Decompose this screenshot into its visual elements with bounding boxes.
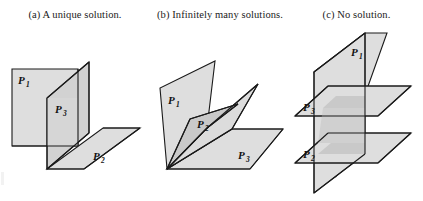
plane-label-p1-subscript: 1 [359,52,363,61]
figure-root: (a) A unique solution. [0,0,423,201]
plane-label-p3-letter: P [55,103,62,115]
plane-label-p1-subscript: 1 [26,80,30,89]
scan-edge-artifact [1,172,4,185]
plane-label-p1-letter: P [168,94,175,106]
plane-label-p3-subscript: 3 [310,107,315,116]
panel-b-figure: P 1 P 2 P 3 [150,26,290,196]
plane-label-p1-letter: P [18,74,25,86]
panel-a-caption: (a) A unique solution. [0,9,150,20]
plane-label-p1-subscript: 1 [176,100,180,109]
plane-label-p2-subscript: 2 [100,156,105,165]
panel-a: (a) A unique solution. [0,0,150,201]
plane-label-p3-letter: P [303,101,310,113]
plane-label-p2-subscript: 2 [310,154,315,163]
plane-label-p3-subscript: 3 [245,155,250,164]
panel-a-figure: P 1 P 3 P 2 [0,26,150,196]
plane-label-p2-subscript: 2 [204,124,209,133]
panel-c-caption: (c) No solution. [290,9,423,20]
panel-a-svg: P 1 P 3 P 2 [0,26,150,196]
plane-label-p1-letter: P [351,46,358,58]
panel-b-svg: P 1 P 2 P 3 [150,26,290,196]
plane-label-p3-subscript: 3 [62,109,67,118]
panel-c-svg: P 1 P 3 P 2 [290,26,423,196]
panel-b-caption: (b) Infinitely many solutions. [150,9,290,20]
panel-c: (c) No solution. [290,0,423,201]
plane-p1-midband [318,108,365,143]
plane-label-p2-letter: P [303,148,310,160]
panel-b: (b) Infinitely many solutions. [150,0,290,201]
plane-label-p2-letter: P [197,118,204,130]
plane-label-p3-letter: P [238,149,245,161]
plane-label-p2-letter: P [93,150,100,162]
panel-c-figure: P 1 P 3 P 2 [290,26,423,196]
plane-overlap-p1-p3 [47,98,78,146]
